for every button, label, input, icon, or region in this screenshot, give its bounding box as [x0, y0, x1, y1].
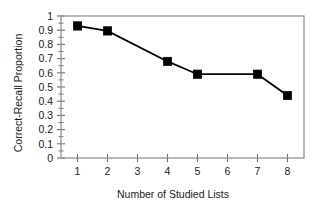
svg-text:0.6: 0.6 — [38, 67, 53, 79]
svg-text:1: 1 — [47, 10, 53, 22]
data-point-marker — [103, 27, 111, 35]
svg-text:4: 4 — [165, 165, 171, 177]
data-point-marker — [163, 57, 171, 65]
svg-text:0.4: 0.4 — [38, 95, 53, 107]
svg-text:1: 1 — [75, 165, 81, 177]
data-point-marker — [193, 70, 201, 78]
data-series-line — [78, 26, 288, 96]
svg-text:0.1: 0.1 — [38, 138, 53, 150]
svg-text:0.3: 0.3 — [38, 109, 53, 121]
plot-frame — [61, 16, 304, 158]
svg-text:0.2: 0.2 — [38, 123, 53, 135]
svg-text:2: 2 — [105, 165, 111, 177]
x-axis-tick-labels: 12345678 — [75, 165, 291, 177]
svg-text:0: 0 — [47, 152, 53, 164]
svg-text:0.9: 0.9 — [38, 24, 53, 36]
svg-text:0.7: 0.7 — [38, 52, 53, 64]
data-point-marker — [283, 91, 291, 99]
data-point-marker — [253, 70, 261, 78]
plot-area: 00.10.20.30.40.50.60.70.80.91 12345678 — [0, 0, 321, 211]
svg-text:3: 3 — [135, 165, 141, 177]
svg-text:0.8: 0.8 — [38, 38, 53, 50]
svg-text:0.5: 0.5 — [38, 81, 53, 93]
data-point-marker — [73, 22, 81, 30]
svg-text:7: 7 — [255, 165, 261, 177]
svg-text:8: 8 — [285, 165, 291, 177]
svg-text:6: 6 — [225, 165, 231, 177]
data-point-markers — [73, 22, 291, 100]
y-axis-tick-labels: 00.10.20.30.40.50.60.70.80.91 — [38, 10, 53, 164]
chart-figure: Correct-Recall Proportion Number of Stud… — [0, 0, 321, 211]
svg-text:5: 5 — [195, 165, 201, 177]
